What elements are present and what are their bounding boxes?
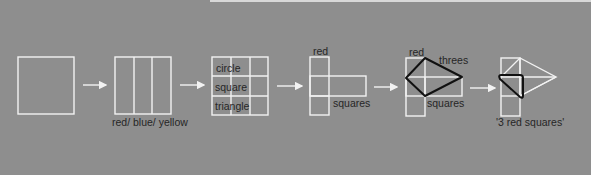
label-red-stage-5: red — [409, 47, 424, 58]
label-triangle: triangle — [215, 101, 249, 112]
label-squares-stage-4: squares — [333, 98, 370, 109]
label-squares-stage-5: squares — [427, 98, 464, 109]
label-red-stage-4: red — [313, 46, 328, 57]
concept-diagram — [0, 0, 607, 180]
label-square: square — [215, 82, 247, 93]
label-threes-stage-5: threes — [439, 55, 468, 66]
stage-1-square — [18, 57, 74, 114]
label-three-red-squares: '3 red squares' — [496, 117, 564, 128]
label-colors: red/ blue/ yellow — [112, 117, 188, 128]
stage-2-columns — [115, 57, 171, 114]
label-circle: circle — [216, 63, 241, 74]
